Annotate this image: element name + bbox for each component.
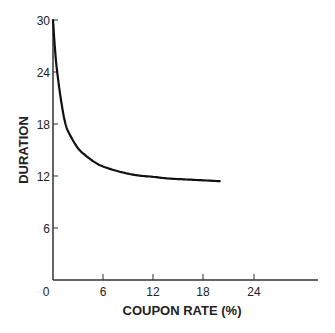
x-axis-title: COUPON RATE (%) (123, 303, 242, 318)
chart: 30 24 18 12 6 0 6 12 18 24 COUPON RATE (… (0, 0, 335, 333)
y-tick-label-24: 24 (37, 66, 51, 80)
y-axis-title: DURATION (16, 116, 31, 184)
x-tick-label-18: 18 (196, 285, 210, 299)
y-tick-label-30: 30 (37, 14, 51, 28)
x-tick-label-24: 24 (247, 285, 261, 299)
y-tick-label-12: 12 (37, 170, 51, 184)
duration-curve (53, 20, 220, 181)
x-tick-label-6: 6 (100, 285, 107, 299)
origin-label: 0 (43, 285, 50, 299)
y-tick-label-18: 18 (37, 118, 51, 132)
x-ticks (103, 274, 254, 280)
x-tick-label-12: 12 (146, 285, 160, 299)
y-tick-label-6: 6 (43, 222, 50, 236)
